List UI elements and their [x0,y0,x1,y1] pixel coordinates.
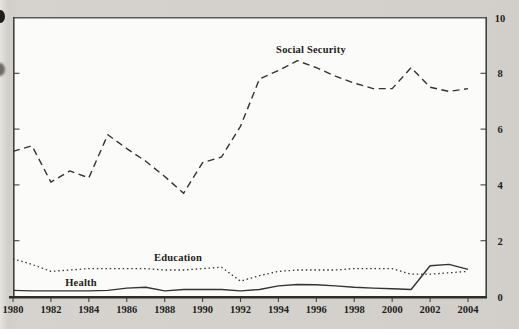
x-tick-label: 1988 [154,304,175,315]
x-tick-label: 1998 [344,304,365,315]
y-tick-label: 2 [497,235,502,246]
series-line-social-security [13,61,468,194]
x-tick-label: 1986 [116,304,137,315]
x-tick-label: 1980 [3,304,24,315]
x-tick-label: 2002 [420,304,441,315]
x-tick-label: 1982 [40,304,61,315]
x-tick-label: 2004 [458,304,479,315]
x-tick-label: 1996 [306,304,327,315]
x-tick-label: 1990 [192,304,213,315]
series-label-health: Health [65,277,97,288]
y-tick-label: 4 [497,179,502,190]
series-label-education: Education [154,252,202,263]
scanned-page: Social Security Education Health 0246810… [0,0,519,329]
x-tick-label: 1992 [230,304,251,315]
x-tick-label: 2000 [382,304,403,315]
series-label-social-security: Social Security [276,44,346,55]
x-tick-label: 1984 [78,304,99,315]
x-tick-label: 1994 [268,304,289,315]
y-tick-label: 0 [497,291,502,302]
y-tick-label: 10 [495,12,506,23]
y-tick-label: 6 [497,124,502,135]
y-tick-label: 8 [497,68,502,79]
